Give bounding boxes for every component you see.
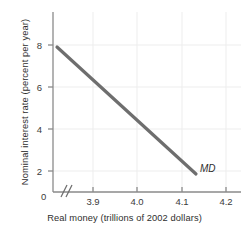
chart-plot-area (0, 0, 249, 234)
y-tick-label-4: 4 (28, 124, 42, 135)
money-demand-curve (57, 47, 196, 174)
x-tick-label-4-2: 4.2 (219, 196, 232, 207)
axis-break-marks (61, 185, 72, 197)
money-demand-curve-label: MD (200, 163, 216, 174)
x-tick-label-4-1: 4.1 (175, 196, 188, 207)
x-tick-label-4-0: 4.0 (130, 196, 143, 207)
y-tick-label-6: 6 (28, 82, 42, 93)
y-tick-label-8: 8 (28, 40, 42, 51)
x-tick-label-3-9: 3.9 (86, 196, 99, 207)
y-axis-title-wrapper: Nominal interest rate (percent per year) (14, 12, 28, 192)
y-axis-title: Nominal interest rate (percent per year) (20, 19, 30, 185)
horizontal-gridlines (53, 45, 241, 171)
x-axis-title: Real money (trillions of 2002 dollars) (0, 213, 249, 223)
y-axis-ticks (48, 45, 53, 171)
origin-label: 0 (41, 191, 46, 202)
demand-for-money-chart: 8 6 4 2 3.9 4.0 4.1 4.2 0 MD Real money … (0, 0, 249, 234)
y-tick-label-2: 2 (28, 166, 42, 177)
x-axis-ticks (93, 187, 226, 192)
